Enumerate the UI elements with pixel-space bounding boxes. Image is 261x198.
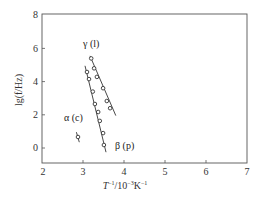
x-tick-label: 6	[204, 166, 209, 177]
series-beta	[85, 66, 106, 152]
y-tick-label: 0	[33, 142, 38, 153]
series-alpha	[76, 132, 80, 142]
y-tick-label: 8	[33, 9, 38, 20]
y-tick-label: 4	[33, 76, 38, 87]
label-alpha: α (c)	[64, 112, 83, 124]
label-beta: β (p)	[115, 140, 134, 152]
series-gamma	[89, 56, 115, 116]
x-tick-label: 3	[81, 166, 86, 177]
y-axis: 0 2 4 6 8	[33, 9, 45, 153]
x-tick-label: 4	[122, 166, 127, 177]
y-tick-label: 2	[33, 109, 38, 120]
x-tick-label: 7	[245, 166, 250, 177]
label-gamma: γ (l)	[82, 38, 99, 50]
arrhenius-plot: 0 2 4 6 8 2 3 4 5 6 7 lg(f/Hz) T−1/10−3K…	[0, 0, 261, 198]
y-axis-title: lg(f/Hz)	[13, 74, 25, 106]
y-tick-label: 6	[33, 43, 38, 54]
x-axis-title: T−1/10−3K−1	[103, 180, 148, 191]
x-tick-label: 2	[41, 166, 46, 177]
x-tick-label: 5	[163, 166, 168, 177]
plot-frame	[42, 14, 247, 163]
